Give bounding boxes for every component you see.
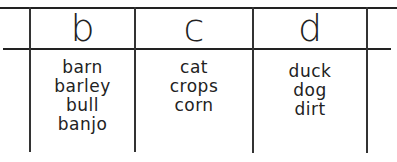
- word-item: dog: [254, 81, 366, 100]
- word-list-d: duck dog dirt: [254, 62, 366, 119]
- word-item: dirt: [254, 100, 366, 119]
- column-header-c: c: [136, 8, 252, 48]
- word-item: corn: [136, 96, 252, 115]
- column-header-d: d: [254, 8, 366, 48]
- word-item: cat: [136, 58, 252, 77]
- word-item: banjo: [31, 115, 134, 134]
- word-item: barley: [31, 77, 134, 96]
- word-list-c: cat crops corn: [136, 58, 252, 115]
- word-item: duck: [254, 62, 366, 81]
- column-header-b: b: [31, 8, 134, 48]
- word-list-b: barn barley bull banjo: [31, 58, 134, 134]
- word-item: crops: [136, 77, 252, 96]
- word-item: barn: [31, 58, 134, 77]
- column-divider-right: [366, 7, 368, 153]
- word-item: bull: [31, 96, 134, 115]
